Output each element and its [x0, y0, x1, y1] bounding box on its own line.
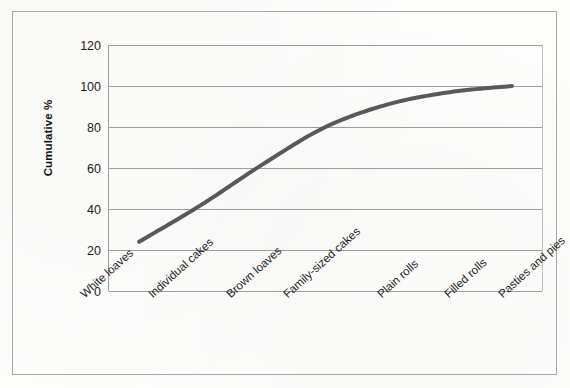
- gridline-120: [109, 45, 542, 46]
- gridline-80: [109, 127, 542, 128]
- y-tick-80: 80: [57, 122, 101, 135]
- gridline-60: [109, 168, 542, 169]
- x-axis-tick-labels: White loaves Individual cakes Brown loav…: [108, 291, 543, 388]
- gridline-40: [109, 209, 542, 210]
- chart-page: Cumulative % 120 100 80 60 40 20 0 Wh: [0, 0, 570, 388]
- y-tick-20: 20: [57, 245, 101, 258]
- y-axis-title: Cumulative %: [42, 73, 54, 203]
- y-tick-60: 60: [57, 163, 101, 176]
- gridline-100: [109, 86, 542, 87]
- y-axis-tick-labels: 120 100 80 60 40 20 0: [57, 45, 101, 291]
- y-tick-120: 120: [57, 40, 101, 53]
- chart-frame: Cumulative % 120 100 80 60 40 20 0 Wh: [12, 11, 557, 375]
- y-tick-40: 40: [57, 204, 101, 217]
- y-tick-100: 100: [57, 81, 101, 94]
